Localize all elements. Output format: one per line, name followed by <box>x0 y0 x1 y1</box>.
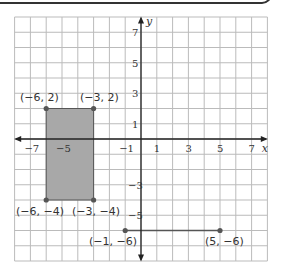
rectangle <box>46 109 93 201</box>
coordinate-plane: −7−5−113577531−3−5 x y (−6, 2) (−3, 2) (… <box>0 0 282 275</box>
x-axis-label: x <box>262 142 269 155</box>
point-label-neg6-2: (−6, 2) <box>20 91 59 104</box>
x-tick-label: −7 <box>24 143 39 154</box>
y-tick-label: −5 <box>128 210 143 221</box>
x-tick-label: −1 <box>119 143 134 154</box>
x-tick-label: −5 <box>56 143 71 154</box>
x-tick-label: 5 <box>217 143 223 154</box>
point-label-neg6-neg4: (−6, −4) <box>16 205 64 218</box>
y-tick-label: −3 <box>128 180 143 191</box>
point-marker <box>44 106 49 111</box>
point-marker <box>217 228 222 233</box>
point-label-5-neg6: (5, −6) <box>205 235 244 248</box>
x-tick-label: 3 <box>185 143 191 154</box>
y-tick-label: 5 <box>132 58 138 69</box>
point-marker <box>91 197 96 202</box>
point-label-neg1-neg6: (−1, −6) <box>89 235 137 248</box>
point-label-neg3-neg4: (−3, −4) <box>72 205 120 218</box>
point-marker <box>123 228 128 233</box>
x-tick-label: 7 <box>249 143 255 154</box>
y-tick-label: 3 <box>132 88 138 99</box>
y-axis-label: y <box>145 15 153 28</box>
point-label-neg3-2: (−3, 2) <box>80 91 119 104</box>
y-tick-label: 7 <box>132 27 138 38</box>
point-marker <box>91 106 96 111</box>
point-marker <box>44 197 49 202</box>
y-tick-label: 1 <box>132 119 138 130</box>
x-tick-label: 1 <box>154 143 160 154</box>
